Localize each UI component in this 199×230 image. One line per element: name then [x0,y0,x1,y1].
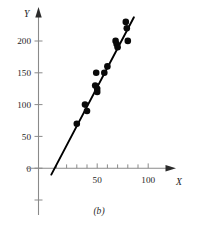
data-points-group [74,19,132,127]
data-point [82,101,89,108]
x-axis-arrowhead [166,165,177,172]
y-axis-label: Y [24,8,31,19]
x-tick-label-100: 100 [141,175,155,185]
x-axis: 50 100 X [26,163,183,187]
x-tick-label-50: 50 [93,175,103,185]
scatter-plot-figure: 200 150 100 50 0 Y 50 100 X [0,0,199,230]
data-point [94,89,101,96]
data-point [125,38,132,45]
chart-canvas: 200 150 100 50 0 Y 50 100 X [0,0,199,230]
data-point [124,25,131,32]
figure-caption: (b) [93,205,104,217]
x-axis-label: X [175,176,183,187]
regression-line [51,17,134,174]
y-axis-arrowhead [35,7,41,18]
data-point [104,63,111,70]
data-point [114,44,121,51]
data-point [123,19,130,26]
y-tick-label-100: 100 [17,100,31,110]
regression-line-group [51,17,134,174]
y-tick-label-200: 200 [17,36,31,46]
data-point [74,120,81,127]
data-point [84,108,91,115]
data-point [93,70,100,77]
y-axis: 200 150 100 50 0 Y [17,7,42,215]
y-tick-label-50: 50 [22,132,32,142]
data-point [101,70,108,77]
y-tick-label-150: 150 [17,68,31,78]
